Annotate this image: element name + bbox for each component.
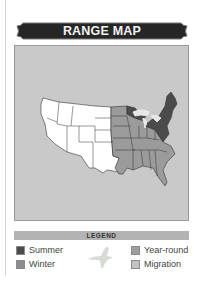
migration-swatch: [131, 260, 140, 269]
year-round-swatch: [131, 246, 140, 255]
legend-label: Year-round: [144, 245, 188, 255]
legend-label: Summer: [29, 245, 63, 255]
summer-swatch: [16, 246, 25, 255]
west-region: [41, 98, 119, 173]
legend-label: Migration: [144, 259, 181, 269]
range-map-header: RANGE MAP: [15, 22, 189, 40]
legend-header: LEGEND: [14, 231, 189, 240]
legend-item-winter: Winter: [16, 259, 55, 269]
us-range-map-graphic: [15, 46, 188, 220]
legend-item-migration: Migration: [131, 259, 181, 269]
bird-silhouette-icon: [85, 244, 117, 270]
legend-label: Winter: [29, 259, 55, 269]
range-map: [14, 45, 189, 221]
legend-item-year-round: Year-round: [131, 245, 188, 255]
page-title: RANGE MAP: [15, 22, 189, 40]
page-margin-rule: [5, 0, 6, 276]
winter-swatch: [16, 260, 25, 269]
legend-item-summer: Summer: [16, 245, 63, 255]
